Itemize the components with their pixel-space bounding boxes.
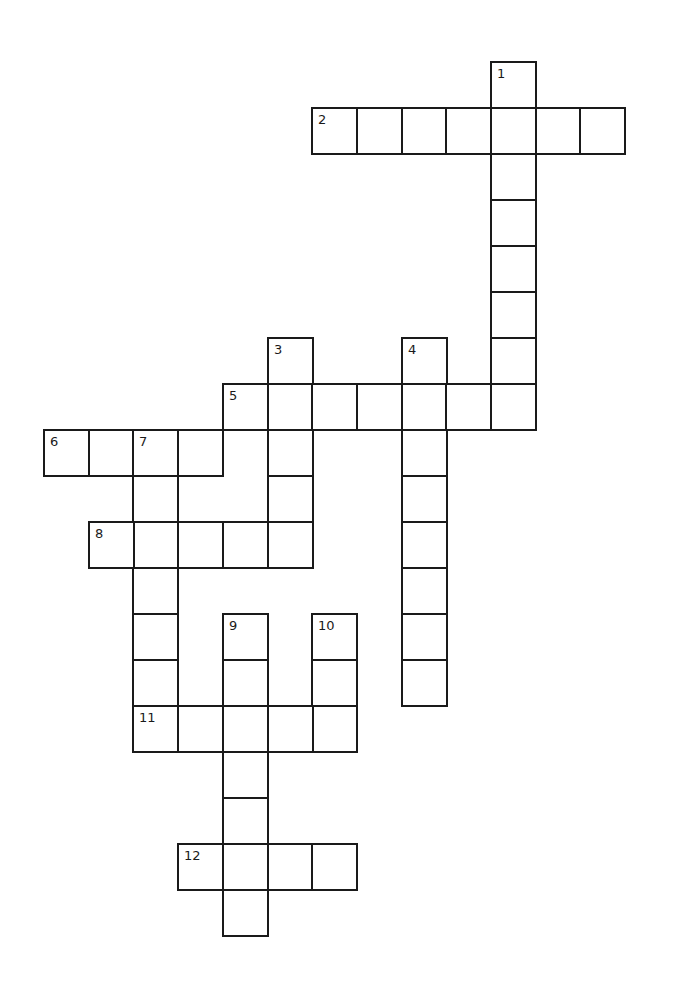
- crossword-cell[interactable]: 12: [177, 843, 224, 891]
- cell-letter-input[interactable]: [358, 385, 401, 429]
- cell-letter-input[interactable]: [269, 339, 312, 383]
- crossword-cell[interactable]: [222, 521, 269, 569]
- cell-letter-input[interactable]: [492, 293, 535, 337]
- cell-letter-input[interactable]: [492, 155, 535, 199]
- cell-letter-input[interactable]: [492, 63, 535, 107]
- cell-letter-input[interactable]: [224, 753, 267, 797]
- crossword-cell[interactable]: 6: [43, 429, 90, 477]
- crossword-cell[interactable]: 1: [490, 61, 537, 109]
- crossword-cell[interactable]: [401, 659, 448, 707]
- crossword-cell[interactable]: [356, 383, 403, 431]
- crossword-cell[interactable]: [311, 843, 358, 891]
- cell-letter-input[interactable]: [313, 845, 356, 889]
- crossword-cell[interactable]: [445, 107, 492, 155]
- crossword-cell[interactable]: [177, 429, 224, 477]
- crossword-cell[interactable]: [88, 429, 135, 477]
- cell-letter-input[interactable]: [134, 523, 177, 567]
- cell-letter-input[interactable]: [224, 385, 267, 429]
- crossword-cell[interactable]: [311, 659, 358, 707]
- cell-letter-input[interactable]: [134, 477, 177, 521]
- crossword-cell[interactable]: [401, 429, 448, 477]
- crossword-cell[interactable]: [490, 337, 537, 385]
- cell-letter-input[interactable]: [313, 661, 356, 705]
- cell-letter-input[interactable]: [269, 845, 312, 889]
- crossword-cell[interactable]: [490, 107, 537, 155]
- crossword-cell[interactable]: [356, 107, 403, 155]
- cell-letter-input[interactable]: [269, 431, 312, 475]
- cell-letter-input[interactable]: [403, 339, 446, 383]
- cell-letter-input[interactable]: [134, 431, 177, 475]
- cell-letter-input[interactable]: [313, 109, 356, 153]
- crossword-cell[interactable]: 7: [132, 429, 179, 477]
- cell-letter-input[interactable]: [179, 523, 222, 567]
- cell-letter-input[interactable]: [224, 891, 267, 935]
- cell-letter-input[interactable]: [224, 845, 267, 889]
- crossword-cell[interactable]: 3: [267, 337, 314, 385]
- crossword-cell[interactable]: [222, 797, 269, 845]
- crossword-cell[interactable]: [401, 613, 448, 661]
- cell-letter-input[interactable]: [269, 385, 312, 429]
- cell-letter-input[interactable]: [179, 707, 222, 751]
- crossword-cell[interactable]: [401, 567, 448, 615]
- crossword-cell[interactable]: [535, 107, 582, 155]
- cell-letter-input[interactable]: [492, 109, 535, 153]
- cell-letter-input[interactable]: [90, 523, 133, 567]
- crossword-cell[interactable]: [132, 475, 179, 523]
- crossword-cell[interactable]: [267, 383, 314, 431]
- crossword-cell[interactable]: [490, 245, 537, 293]
- cell-letter-input[interactable]: [403, 615, 446, 659]
- cell-letter-input[interactable]: [134, 707, 177, 751]
- cell-letter-input[interactable]: [447, 109, 490, 153]
- cell-letter-input[interactable]: [134, 615, 177, 659]
- cell-letter-input[interactable]: [581, 109, 624, 153]
- cell-letter-input[interactable]: [537, 109, 580, 153]
- cell-letter-input[interactable]: [224, 523, 267, 567]
- crossword-cell[interactable]: 8: [88, 521, 135, 569]
- cell-letter-input[interactable]: [134, 661, 177, 705]
- cell-letter-input[interactable]: [45, 431, 88, 475]
- crossword-cell[interactable]: [579, 107, 626, 155]
- crossword-cell[interactable]: 9: [222, 613, 269, 661]
- crossword-cell[interactable]: [490, 199, 537, 247]
- cell-letter-input[interactable]: [224, 615, 267, 659]
- cell-letter-input[interactable]: [224, 799, 267, 843]
- crossword-cell[interactable]: [401, 383, 448, 431]
- cell-letter-input[interactable]: [224, 661, 267, 705]
- cell-letter-input[interactable]: [492, 339, 535, 383]
- cell-letter-input[interactable]: [403, 569, 446, 613]
- crossword-cell[interactable]: 5: [222, 383, 269, 431]
- cell-letter-input[interactable]: [179, 431, 222, 475]
- crossword-cell[interactable]: [311, 383, 358, 431]
- cell-letter-input[interactable]: [492, 385, 535, 429]
- crossword-cell[interactable]: [267, 429, 314, 477]
- cell-letter-input[interactable]: [403, 431, 446, 475]
- crossword-cell[interactable]: [222, 751, 269, 799]
- crossword-cell[interactable]: 10: [311, 613, 358, 661]
- crossword-cell[interactable]: [267, 843, 314, 891]
- crossword-cell[interactable]: [132, 521, 179, 569]
- crossword-cell[interactable]: [222, 889, 269, 937]
- cell-letter-input[interactable]: [492, 247, 535, 291]
- crossword-cell[interactable]: [132, 613, 179, 661]
- cell-letter-input[interactable]: [492, 201, 535, 245]
- cell-letter-input[interactable]: [403, 109, 446, 153]
- crossword-cell[interactable]: [311, 705, 358, 753]
- cell-letter-input[interactable]: [179, 845, 222, 889]
- crossword-cell[interactable]: [132, 659, 179, 707]
- crossword-cell[interactable]: [222, 705, 269, 753]
- crossword-cell[interactable]: [177, 705, 224, 753]
- crossword-cell[interactable]: [401, 521, 448, 569]
- crossword-cell[interactable]: [267, 475, 314, 523]
- cell-letter-input[interactable]: [134, 569, 177, 613]
- crossword-cell[interactable]: [267, 521, 314, 569]
- crossword-cell[interactable]: 2: [311, 107, 358, 155]
- cell-letter-input[interactable]: [269, 523, 312, 567]
- cell-letter-input[interactable]: [269, 477, 312, 521]
- cell-letter-input[interactable]: [224, 707, 267, 751]
- cell-letter-input[interactable]: [313, 707, 356, 751]
- crossword-cell[interactable]: [222, 843, 269, 891]
- cell-letter-input[interactable]: [358, 109, 401, 153]
- crossword-cell[interactable]: [445, 383, 492, 431]
- cell-letter-input[interactable]: [403, 661, 446, 705]
- cell-letter-input[interactable]: [313, 385, 356, 429]
